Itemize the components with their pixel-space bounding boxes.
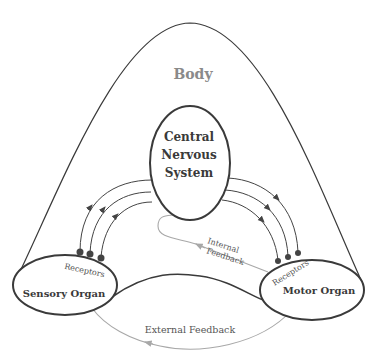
nervous-system-diagram: Body Central Nervous System Sensory Orga…	[0, 0, 384, 363]
afferent-pathways	[80, 180, 152, 257]
internal-feedback-label: Internal Feedback	[205, 236, 245, 267]
base-curve	[112, 274, 268, 302]
motor-organ-label: Motor Organ	[283, 285, 356, 296]
external-feedback-label: External Feedback	[145, 324, 236, 335]
cns-label: Central Nervous System	[161, 130, 217, 180]
sensory-organ-label: Sensory Organ	[23, 288, 106, 299]
svg-text:Nervous: Nervous	[161, 148, 217, 162]
svg-text:Central: Central	[164, 130, 215, 144]
cns-ellipse	[150, 106, 230, 220]
svg-text:System: System	[165, 166, 214, 180]
body-label: Body	[173, 66, 213, 82]
